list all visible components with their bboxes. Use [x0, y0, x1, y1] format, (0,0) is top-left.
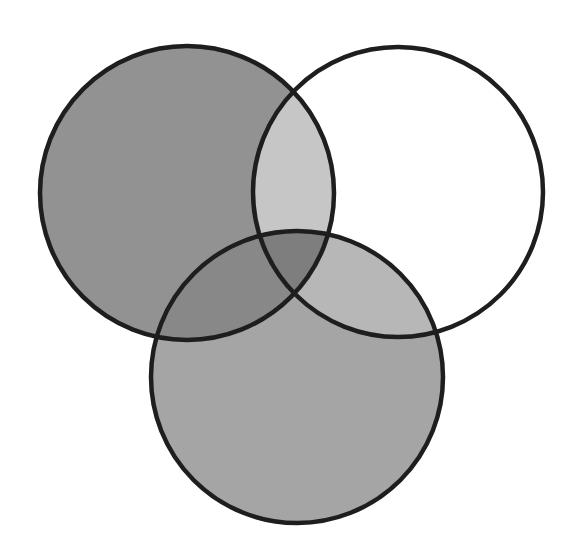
- venn-diagram: [0, 0, 573, 557]
- region-fills: [40, 46, 543, 523]
